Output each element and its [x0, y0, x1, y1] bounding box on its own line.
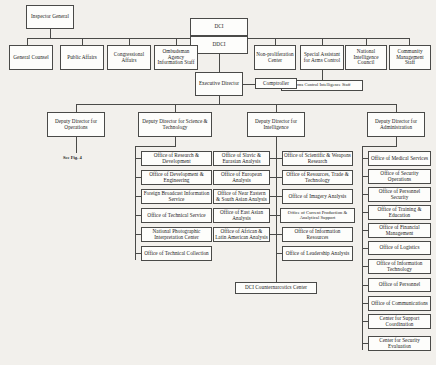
dci-staff-congressional-affairs[interactable]: Congressional Affairs [107, 45, 151, 70]
ddci-staff-national-intelligence-council[interactable]: National Intelligence Council [345, 45, 387, 70]
ddci-staff-nonproliferation-center[interactable]: Non-proliferation Center [254, 45, 296, 70]
node-inspector-general[interactable]: Inspector General [26, 5, 74, 29]
directorate-science-technology[interactable]: Deputy Director for Science & Technology [138, 112, 212, 137]
office-security-operations[interactable]: Office of Security Operations [368, 169, 431, 184]
line-stem-ddst [175, 104, 176, 112]
directorate-operations[interactable]: Deputy Director for Operations [47, 112, 105, 137]
office-financial-management[interactable]: Office of Financial Management [368, 223, 431, 238]
office-resources-trade-technology[interactable]: Office of Resources, Trade & Technology [282, 170, 353, 185]
line-ddo-stem [76, 137, 77, 153]
node-ddci[interactable]: DDCI [190, 36, 248, 54]
office-medical-services[interactable]: Office of Medical Services [368, 151, 431, 166]
line-ddst-spine [135, 146, 136, 260]
org-chart: Inspector General DCI DDCI General Couns… [0, 0, 436, 365]
ddci-staff-special-assistant-arms-control[interactable]: Special Assistant for Arms Control [300, 45, 344, 70]
note-see-fig-4: See Fig. 4 [63, 155, 82, 160]
center-security-evaluation[interactable]: Center for Security Evaluation [368, 336, 431, 351]
office-information-technology[interactable]: Office of Information Technology [368, 259, 431, 274]
office-leadership-analysis[interactable]: Office of Leadership Analysis [282, 246, 353, 261]
line-stem-ombudsman [176, 38, 177, 45]
office-east-asian-analysis[interactable]: Office of East Asian Analysis [213, 208, 270, 223]
node-executive-director[interactable]: Executive Director [195, 72, 243, 96]
office-technical-collection[interactable]: Office of Technical Collection [141, 246, 212, 261]
line-ddci-staff-bus [248, 38, 409, 39]
office-development-engineering[interactable]: Office of Development & Engineering [141, 170, 212, 185]
office-current-production-analytical-support[interactable]: Office of Current Production & Analytica… [280, 208, 355, 223]
center-dci-counternarcotics[interactable]: DCI Counternarcotics Center [235, 282, 317, 294]
line-stem-cms [409, 38, 410, 45]
line-directorate-bus [76, 104, 396, 105]
line-jog-general-counsel [27, 38, 50, 39]
office-research-development[interactable]: Office of Research & Development [141, 151, 212, 166]
node-comptroller[interactable]: Comptroller [255, 78, 297, 89]
directorate-administration[interactable]: Deputy Director for Administration [367, 112, 425, 137]
line-stem-congressional-affairs [129, 38, 130, 45]
office-foreign-broadcast-information-service[interactable]: Foreign Broadcast Information Service [141, 189, 212, 204]
office-slavic-eurasian-analysis[interactable]: Office of Slavic & Eurasian Analysis [213, 151, 270, 166]
line-dda-spine-drop [396, 137, 397, 146]
line-execdir-to-comptroller [243, 84, 255, 85]
line-sa-to-acis [322, 70, 323, 80]
line-stem-dda [396, 104, 397, 112]
line-execdir-stem [219, 96, 220, 104]
dci-staff-ombudsman-agency-information-staff[interactable]: Ombudsman Agency Information Staff [154, 45, 198, 70]
office-information-resources[interactable]: Office of Information Resources [282, 227, 353, 242]
office-training-education[interactable]: Office of Training & Education [368, 205, 431, 220]
line-stem-nonproliferation [275, 38, 276, 45]
line-ddst-spine-jog [135, 146, 176, 147]
office-personnel[interactable]: Office of Personnel [368, 278, 431, 292]
office-near-eastern-south-asian-analysis[interactable]: Office of Near Eastern & South Asian Ana… [213, 189, 270, 204]
line-dda-spine-jog [362, 146, 397, 147]
office-european-analysis[interactable]: Office of European Analysis [213, 170, 270, 185]
line-stem-special-assistant [322, 38, 323, 45]
office-technical-service[interactable]: Office of Technical Service [141, 208, 212, 223]
dci-staff-public-affairs[interactable]: Public Affairs [60, 45, 104, 70]
line-ddst-spine-drop [175, 137, 176, 146]
office-personnel-security[interactable]: Office of Personnel Security [368, 187, 431, 202]
dci-staff-general-counsel[interactable]: General Counsel [9, 45, 53, 70]
center-support-coordination[interactable]: Center for Support Coordination [368, 314, 431, 329]
line-stem-public-affairs [82, 38, 83, 45]
node-dci[interactable]: DCI [190, 18, 248, 36]
line-ig-stem [50, 29, 51, 38]
office-logistics[interactable]: Office of Logistics [368, 241, 431, 255]
office-african-latin-american-analysis[interactable]: Office of African & Latin American Analy… [213, 227, 270, 242]
office-national-photographic-interpretation-center[interactable]: National Photographic Interpretation Cen… [141, 227, 212, 242]
line-ddci-to-execdir [219, 54, 220, 72]
office-scientific-weapons-research[interactable]: Office of Scientific & Weapons Research [282, 151, 353, 166]
line-stem-ddo [76, 104, 77, 112]
ddci-staff-community-management-staff[interactable]: Community Management Staff [389, 45, 431, 70]
office-imagery-analysis[interactable]: Office of Imagery Analysis [282, 189, 353, 204]
line-stem-ddi [276, 104, 277, 112]
line-dci-staff-bus [50, 38, 190, 39]
line-stem-general-counsel [27, 38, 28, 45]
office-communications[interactable]: Office of Communications [368, 296, 431, 311]
line-stem-nic [366, 38, 367, 45]
directorate-intelligence[interactable]: Deputy Director for Intelligence [247, 112, 305, 137]
